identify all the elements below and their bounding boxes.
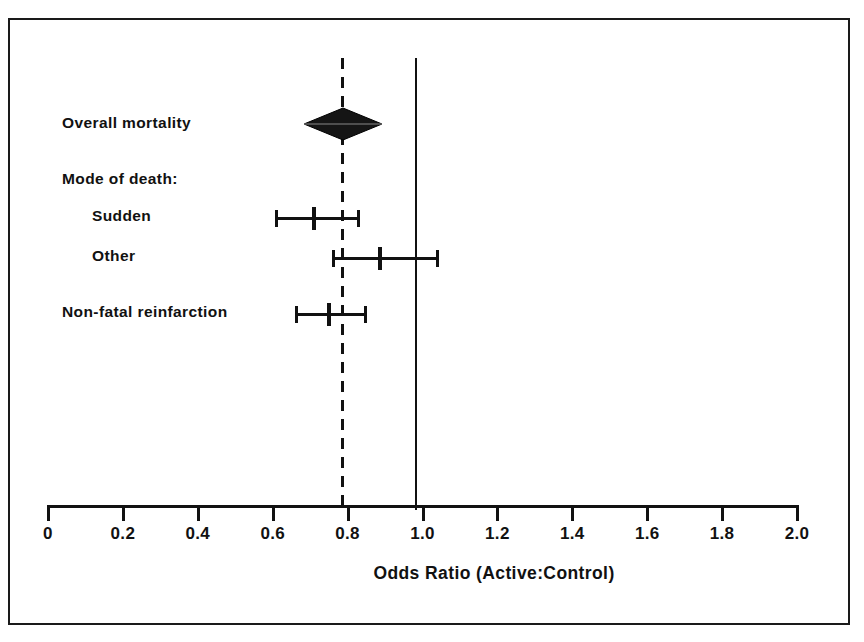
ci-line-other (333, 257, 438, 260)
x-axis-tick-label: 0 (43, 524, 53, 544)
x-axis-tick-label: 0.6 (260, 524, 285, 544)
ci-cap-high-non-fatal-reinfarction (364, 306, 367, 323)
x-axis-tick (496, 505, 499, 521)
x-axis-title-text: Odds Ratio (Active:Control) (373, 563, 614, 583)
x-axis-tick-label: 1.6 (635, 524, 660, 544)
figure-canvas: Overall mortality Mode of death: Sudden … (0, 0, 864, 642)
x-axis-tick (347, 505, 350, 521)
row-label-non-fatal-reinfarction: Non-fatal reinfarction (62, 303, 228, 321)
no-effect-solid-line (415, 58, 417, 510)
x-axis-tick-label: 0.8 (335, 524, 360, 544)
x-axis-tick-label: 1.4 (560, 524, 585, 544)
summary-diamond-overall-mortality (303, 104, 383, 148)
x-axis-tick (197, 505, 200, 521)
row-label-mode-of-death: Mode of death: (62, 170, 178, 188)
ci-line-sudden (276, 217, 359, 220)
ci-row-other (0, 257, 864, 259)
ci-row-sudden (0, 217, 864, 219)
ci-point-estimate-sudden (312, 207, 316, 230)
ci-point-estimate-non-fatal-reinfarction (327, 303, 331, 326)
x-axis-tick (721, 505, 724, 521)
clipped-caption (20, 630, 840, 642)
ci-point-estimate-other (378, 247, 382, 270)
ci-row-non-fatal-reinfarction (0, 313, 864, 315)
x-axis-tick-label: 0.2 (111, 524, 136, 544)
ci-line-non-fatal-reinfarction (296, 313, 366, 316)
ci-cap-high-sudden (357, 210, 360, 227)
x-axis-tick (796, 505, 799, 521)
ci-cap-low-sudden (275, 210, 278, 227)
x-axis-tick-label: 2.0 (785, 524, 810, 544)
x-axis-tick (47, 505, 50, 521)
row-label-other: Other (92, 247, 135, 265)
row-label-overall-mortality: Overall mortality (62, 114, 191, 132)
x-axis-tick-label: 1.8 (710, 524, 735, 544)
ci-cap-low-other (332, 250, 335, 267)
x-axis-tick (422, 505, 425, 521)
ci-cap-high-other (436, 250, 439, 267)
x-axis-tick-label: 1.0 (410, 524, 435, 544)
row-label-sudden: Sudden (92, 207, 151, 225)
ci-cap-low-non-fatal-reinfarction (295, 306, 298, 323)
x-axis-tick (122, 505, 125, 521)
x-axis-tick (571, 505, 574, 521)
x-axis-tick (272, 505, 275, 521)
x-axis-tick-label: 1.2 (485, 524, 510, 544)
x-axis-tick-label: 0.4 (186, 524, 211, 544)
x-axis-tick (646, 505, 649, 521)
x-axis-title: Odds Ratio (Active:Control) (0, 563, 864, 584)
